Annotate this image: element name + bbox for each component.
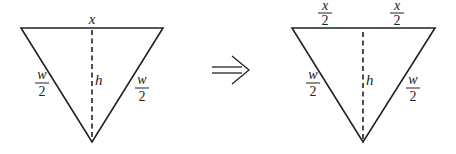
right-triangle-right-side-label: w 2 xyxy=(406,72,420,104)
left-triangle-right-side-label: w 2 xyxy=(135,72,149,104)
fraction-numerator: x xyxy=(321,0,329,13)
fraction-numerator: w xyxy=(408,72,418,87)
right-triangle-left-side-label: w 2 xyxy=(306,67,320,99)
right-height-label: h xyxy=(366,72,374,88)
right-triangle: x 2 x 2 h w 2 w 2 xyxy=(292,0,435,142)
fraction-numerator: x xyxy=(393,0,401,13)
diagram-canvas: x h w 2 w 2 x 2 x 2 h xyxy=(0,0,456,154)
right-triangle-top-left-label: x 2 xyxy=(318,0,332,28)
fraction-numerator: w xyxy=(308,67,318,82)
left-triangle-left-side-label: w 2 xyxy=(35,67,49,99)
fraction-denominator: 2 xyxy=(410,89,417,104)
fraction-numerator: w xyxy=(137,72,147,87)
fraction-denominator: 2 xyxy=(394,13,401,28)
left-triangle: x h w 2 w 2 xyxy=(21,11,163,142)
right-triangle-top-right-label: x 2 xyxy=(390,0,404,28)
left-height-label: h xyxy=(95,72,103,88)
fraction-denominator: 2 xyxy=(139,89,146,104)
fraction-denominator: 2 xyxy=(322,13,329,28)
implies-arrow-icon xyxy=(212,56,249,84)
fraction-numerator: w xyxy=(37,67,47,82)
fraction-denominator: 2 xyxy=(39,84,46,99)
fraction-denominator: 2 xyxy=(310,84,317,99)
left-top-label: x xyxy=(88,11,96,27)
